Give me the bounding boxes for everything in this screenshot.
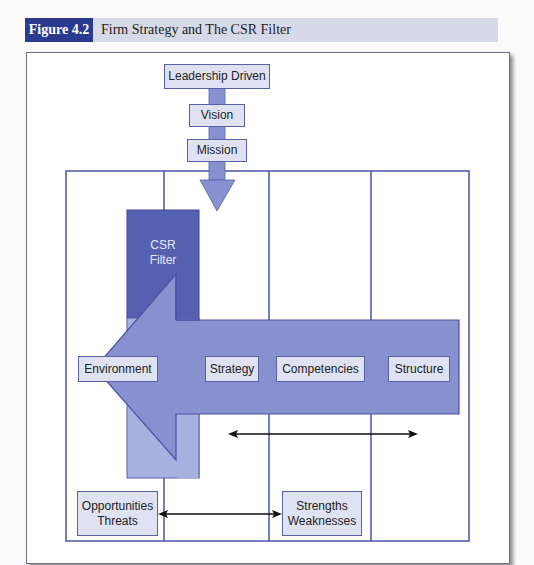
competencies-box: Competencies (276, 356, 365, 382)
opportunities-threats-box: Opportunities Threats (77, 491, 158, 536)
leadership-connector (209, 82, 225, 180)
strategy-box: Strategy (205, 356, 259, 382)
environment-box: Environment (78, 356, 158, 382)
down-arrow-icon (200, 180, 235, 211)
leadership-driven-box: Leadership Driven (164, 64, 270, 89)
vision-box: Vision (189, 104, 245, 127)
csr-filter-label: CSR Filter (127, 238, 199, 268)
csr-filter-overlay (177, 415, 199, 478)
mission-box: Mission (187, 139, 247, 162)
structure-box: Structure (388, 356, 450, 382)
strengths-weaknesses-box: Strengths Weaknesses (282, 491, 362, 536)
